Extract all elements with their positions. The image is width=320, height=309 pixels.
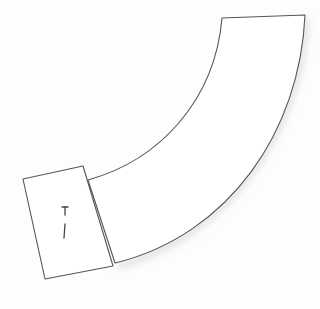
sketch-svg	[0, 0, 320, 309]
sketch-canvas	[0, 0, 320, 309]
